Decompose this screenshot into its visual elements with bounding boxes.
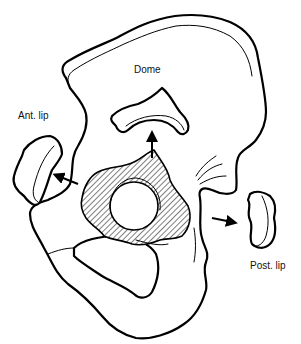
posterior-lip-arrow: [212, 218, 232, 222]
label-anterior-lip: Ant. lip: [18, 110, 49, 121]
posterior-lip-fragment: [248, 192, 275, 248]
anterior-lip-fragment: [13, 136, 62, 205]
acetabulum-diagram: Dome Ant. lip Post. lip: [0, 0, 301, 344]
label-posterior-lip: Post. lip: [250, 260, 286, 271]
diagram-canvas: [0, 0, 301, 344]
label-dome: Dome: [134, 64, 161, 75]
femoral-head-socket: [110, 182, 158, 230]
